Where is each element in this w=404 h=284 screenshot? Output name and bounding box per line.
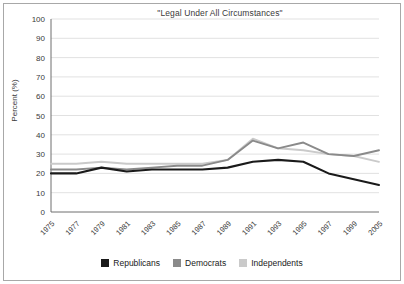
y-tick-label: 20 xyxy=(36,169,45,178)
x-tick-label: 1983 xyxy=(139,219,157,237)
x-tick-label: 1987 xyxy=(190,219,208,237)
legend-item: Democrats xyxy=(173,258,226,268)
x-tick-label: 1989 xyxy=(215,219,233,237)
y-tick-label: 60 xyxy=(36,92,45,101)
y-tick-label: 40 xyxy=(36,131,45,140)
y-tick-labels-group: 0102030405060708090100 xyxy=(32,15,46,217)
x-tick-label: 1975 xyxy=(38,219,56,237)
legend-swatch-icon xyxy=(101,259,109,267)
x-tick-label: 2005 xyxy=(366,219,384,237)
x-tick-label: 1999 xyxy=(341,219,359,237)
x-tick-label: 1981 xyxy=(114,219,132,237)
gridlines-group xyxy=(51,19,379,193)
x-tick-label: 1997 xyxy=(316,219,334,237)
legend-swatch-icon xyxy=(173,259,181,267)
x-tick-label: 1985 xyxy=(164,219,182,237)
chart-figure: "Legal Under All Circumstances" Percent … xyxy=(0,0,404,284)
y-tick-label: 30 xyxy=(36,150,45,159)
x-tick-label: 1995 xyxy=(291,219,309,237)
x-tick-labels-group: 1975197719791981198319851987198919911993… xyxy=(38,219,384,237)
y-tick-label: 90 xyxy=(36,34,45,43)
series-line-democrats xyxy=(51,141,379,170)
legend-item: Independents xyxy=(239,258,303,268)
y-tick-label: 0 xyxy=(41,208,46,217)
legend-label: Independents xyxy=(251,258,303,268)
x-tick-label: 1977 xyxy=(63,219,81,237)
data-series-group xyxy=(51,139,379,185)
y-tick-label: 70 xyxy=(36,73,45,82)
y-tick-label: 50 xyxy=(36,112,45,121)
plot-area: 0102030405060708090100 19751977197919811… xyxy=(0,0,404,284)
legend-swatch-icon xyxy=(239,259,247,267)
y-tick-label: 80 xyxy=(36,54,45,63)
legend-label: Democrats xyxy=(185,258,226,268)
legend-label: Republicans xyxy=(113,258,160,268)
chart-legend: RepublicansDemocratsIndependents xyxy=(0,258,404,268)
legend-item: Republicans xyxy=(101,258,160,268)
y-tick-label: 10 xyxy=(36,189,45,198)
series-line-independents xyxy=(51,139,379,164)
x-tick-label: 1993 xyxy=(265,219,283,237)
x-tick-label: 1991 xyxy=(240,219,258,237)
y-tick-label: 100 xyxy=(32,15,46,24)
x-tick-label: 1979 xyxy=(89,219,107,237)
